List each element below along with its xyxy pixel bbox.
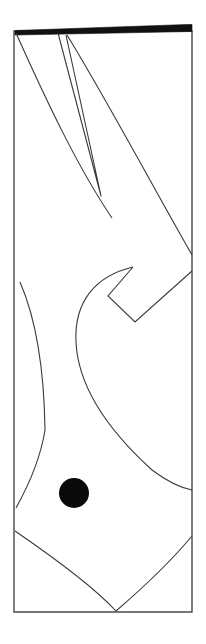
drawing-canvas [0,0,206,644]
filled-dot [59,478,89,508]
line-art-figure [0,0,206,644]
